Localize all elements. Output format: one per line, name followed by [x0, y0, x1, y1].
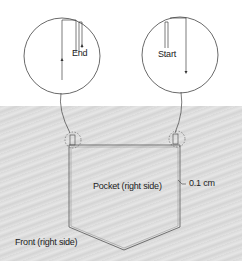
pocket-diagram	[0, 0, 242, 265]
pocket-label: Pocket (right side)	[93, 181, 162, 191]
corner-marker-left	[65, 132, 81, 148]
front-label: Front (right side)	[15, 237, 77, 247]
start-label: Start	[158, 49, 176, 59]
end-label: End	[72, 48, 87, 58]
detail-circle-end	[24, 18, 100, 94]
measurement-label: 0.1 cm	[189, 178, 215, 188]
pocket-outline	[69, 145, 180, 250]
detail-circle-start	[142, 17, 218, 93]
